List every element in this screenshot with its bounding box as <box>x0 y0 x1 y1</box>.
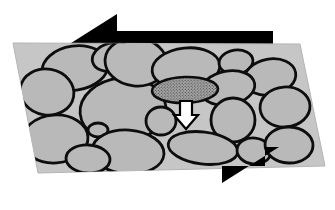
grain-17 <box>264 126 313 164</box>
grain-18 <box>146 107 176 135</box>
figure-root: A sheared slab of packed rounded grains … <box>0 0 335 210</box>
granular-shear-diagram <box>0 0 335 210</box>
grain-19 <box>65 144 110 174</box>
